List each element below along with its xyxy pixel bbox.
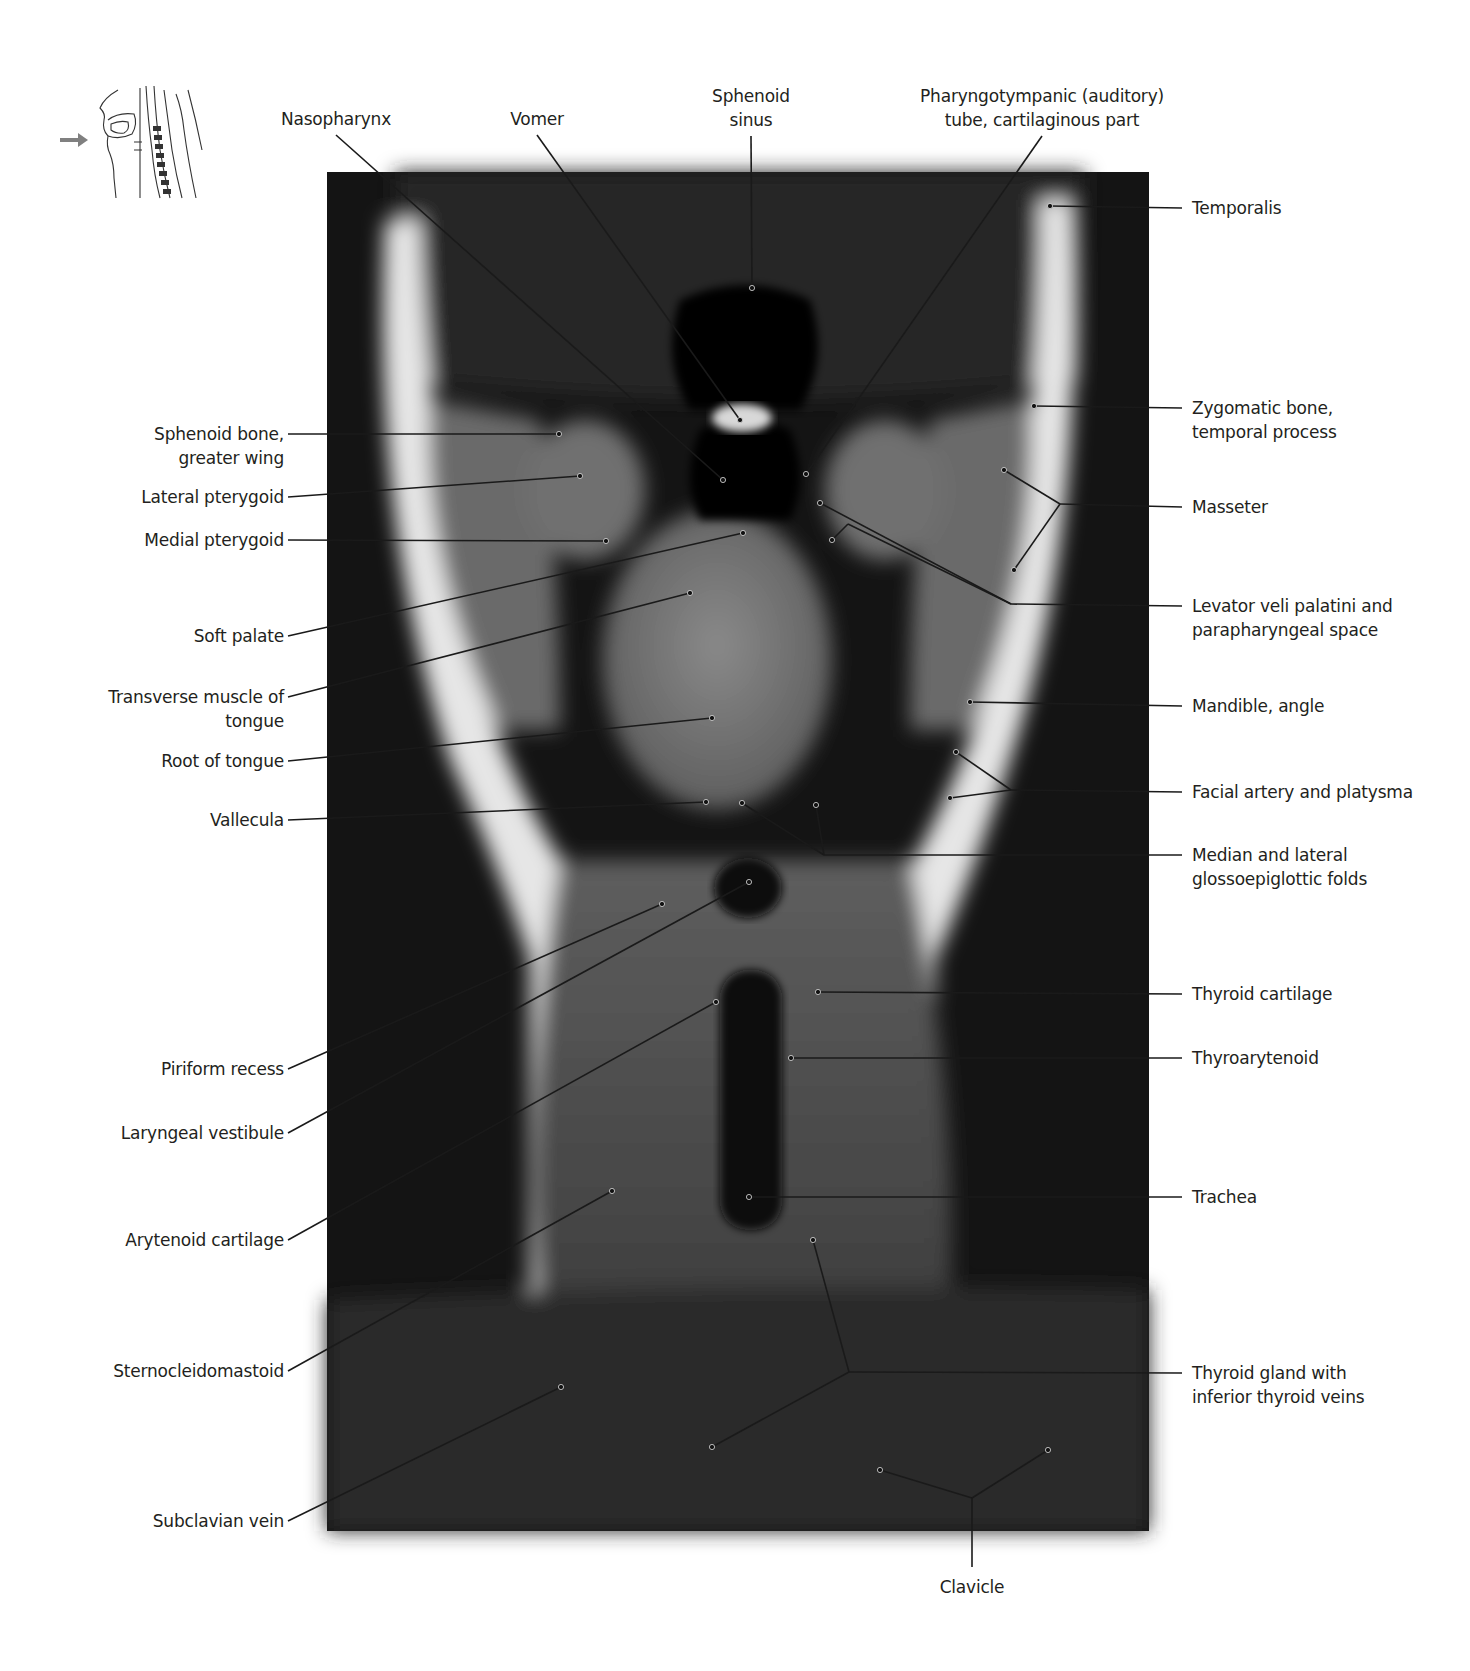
label-thyroid-gland: Thyroid gland with inferior thyroid vein… (1192, 1361, 1364, 1409)
leader-line (1011, 604, 1182, 606)
label-sphenoid-bone: Sphenoid bone, greater wing (154, 422, 284, 470)
pointer-dot (1045, 1447, 1050, 1452)
pointer-dot (829, 537, 834, 542)
pointer-dot (749, 285, 754, 290)
leader-line (1011, 790, 1182, 792)
leader-line (537, 135, 740, 420)
pointer-dot (967, 699, 972, 704)
leader-line (880, 1470, 972, 1498)
label-lateral-pterygoid: Lateral pterygoid (141, 485, 284, 509)
leader-line (288, 904, 662, 1069)
leader-line (956, 752, 1011, 790)
leader-line (816, 805, 824, 855)
pointer-dot (788, 1055, 793, 1060)
label-facial-artery: Facial artery and platysma (1192, 780, 1413, 804)
pointer-dot (1001, 467, 1006, 472)
pointer-dot (740, 530, 745, 535)
leader-line (288, 718, 712, 761)
pointer-dot (713, 999, 718, 1004)
leader-line (288, 1387, 561, 1521)
pointer-dot (687, 590, 692, 595)
pointer-dot (703, 799, 708, 804)
label-vomer: Vomer (510, 107, 564, 131)
label-medial-pterygoid: Medial pterygoid (144, 528, 284, 552)
pointer-dot (815, 989, 820, 994)
leader-line (1014, 504, 1060, 570)
leader-line (972, 1450, 1048, 1498)
label-subclavian-vein: Subclavian vein (153, 1509, 284, 1533)
leader-line (288, 540, 606, 541)
label-trachea: Trachea (1192, 1185, 1257, 1209)
pointer-dot (817, 500, 822, 505)
label-temporalis: Temporalis (1192, 196, 1281, 220)
label-soft-palate: Soft palate (194, 624, 284, 648)
leader-line (288, 593, 690, 697)
leader-line (712, 1372, 849, 1447)
pointer-dot (1047, 203, 1052, 208)
leader-line (288, 476, 580, 497)
leader-line (336, 135, 723, 480)
label-root-of-tongue: Root of tongue (161, 749, 284, 773)
anatomy-figure: Nasopharynx Vomer Sphenoid sinus Pharyng… (0, 0, 1470, 1671)
label-glossoepiglottic-folds: Median and lateral glossoepiglottic fold… (1192, 843, 1367, 891)
label-laryngeal-vestibule: Laryngeal vestibule (121, 1121, 284, 1145)
pointer-dot (877, 1467, 882, 1472)
label-levator-veli-palatini: Levator veli palatini and parapharyngeal… (1192, 594, 1393, 642)
leader-line (1004, 470, 1060, 504)
label-nasopharynx: Nasopharynx (281, 107, 391, 131)
pointer-dot (709, 715, 714, 720)
leader-line (288, 802, 706, 820)
pointer-dot (947, 795, 952, 800)
label-masseter: Masseter (1192, 495, 1268, 519)
label-thyroid-cartilage: Thyroid cartilage (1192, 982, 1332, 1006)
pointer-dot (709, 1444, 714, 1449)
label-arytenoid-cartilage: Arytenoid cartilage (125, 1228, 284, 1252)
leader-line (1060, 504, 1182, 507)
leader-line (820, 503, 1011, 604)
pointer-dot (720, 477, 725, 482)
pointer-dot (1011, 567, 1016, 572)
leader-line (288, 882, 749, 1133)
leader-line (288, 533, 743, 636)
leader-line (751, 136, 752, 288)
pointer-dot (577, 473, 582, 478)
leader-line (832, 524, 848, 540)
leader-lines (0, 0, 1470, 1671)
pointer-dot (746, 879, 751, 884)
label-mandible-angle: Mandible, angle (1192, 694, 1324, 718)
pointer-dot (609, 1188, 614, 1193)
label-vallecula: Vallecula (210, 808, 284, 832)
leader-line (288, 1002, 716, 1240)
label-thyroarytenoid: Thyroarytenoid (1192, 1046, 1319, 1070)
label-piriform-recess: Piriform recess (161, 1057, 284, 1081)
pointer-dot (813, 802, 818, 807)
leader-line (970, 702, 1182, 706)
label-sphenoid-sinus: Sphenoid sinus (712, 84, 790, 132)
pointer-dot (659, 901, 664, 906)
pointer-dot (558, 1384, 563, 1389)
label-transverse-muscle: Transverse muscle of tongue (108, 685, 284, 733)
leader-line (818, 992, 1182, 994)
leader-line (848, 524, 1011, 604)
pointer-dot (746, 1194, 751, 1199)
pointer-dot (739, 800, 744, 805)
leader-line (849, 1372, 1182, 1373)
leader-line (813, 1240, 849, 1372)
leader-line (1050, 206, 1182, 208)
leader-line (806, 136, 1042, 474)
leader-line (742, 803, 824, 855)
leader-line (950, 790, 1011, 798)
pointer-dot (556, 431, 561, 436)
leader-line (288, 1191, 612, 1371)
pointer-dot (803, 471, 808, 476)
label-sternocleidomastoid: Sternocleidomastoid (113, 1359, 284, 1383)
pointer-dot (953, 749, 958, 754)
label-clavicle: Clavicle (940, 1575, 1005, 1599)
leader-line (1034, 406, 1182, 408)
pointer-dot (737, 417, 742, 422)
pointer-dot (603, 538, 608, 543)
label-zygomatic-bone: Zygomatic bone, temporal process (1192, 396, 1337, 444)
pointer-dot (1031, 403, 1036, 408)
pointer-dot (810, 1237, 815, 1242)
label-pharyngotympanic-tube: Pharyngotympanic (auditory) tube, cartil… (920, 84, 1164, 132)
